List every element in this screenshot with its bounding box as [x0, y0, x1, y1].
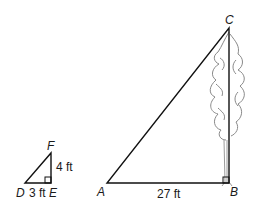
vertex-label-A: A	[96, 185, 105, 199]
small-triangle-DEF	[25, 153, 51, 183]
vertex-label-E: E	[49, 186, 58, 200]
similar-triangles-diagram: D E F 3 ft 4 ft A B C 27 ft	[0, 0, 268, 217]
tree-illustration	[210, 32, 244, 186]
side-label-DE: 3 ft	[29, 186, 46, 200]
side-label-EF: 4 ft	[56, 160, 73, 174]
vertex-label-F: F	[47, 139, 55, 153]
right-angle-marker-E	[45, 177, 51, 183]
right-angle-marker-B	[223, 177, 229, 183]
vertex-label-D: D	[16, 186, 25, 200]
side-label-AB: 27 ft	[157, 187, 181, 201]
vertex-label-C: C	[225, 13, 234, 27]
vertex-label-B: B	[230, 185, 238, 199]
